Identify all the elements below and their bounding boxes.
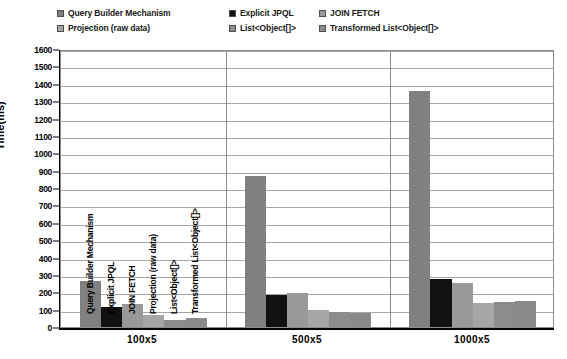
y-axis-tick-label: 1400 bbox=[34, 80, 52, 90]
y-axis-tick-label: 1600 bbox=[34, 45, 52, 55]
y-axis-tick-label: 100 bbox=[39, 306, 52, 316]
y-axis-tick-label: 500 bbox=[39, 236, 52, 246]
bar-500x5-series-4 bbox=[329, 312, 350, 327]
bar-100x5-series-5 bbox=[186, 318, 207, 327]
bar-1000x5-series-2 bbox=[452, 283, 473, 327]
legend-swatch-icon bbox=[319, 25, 326, 32]
x-axis-line bbox=[59, 328, 554, 330]
legend-label: List<Object[]> bbox=[240, 23, 296, 34]
gridline bbox=[61, 86, 553, 87]
gridline bbox=[61, 103, 553, 104]
gridline bbox=[61, 121, 553, 122]
in-plot-series-label: List<Object[]> bbox=[169, 260, 179, 314]
bar-100x5-series-3 bbox=[143, 315, 164, 327]
legend-item-query-builder-mechanism: Query Builder Mechanism bbox=[57, 8, 229, 19]
bar-1000x5-series-0 bbox=[409, 91, 430, 327]
bar-1000x5-series-1 bbox=[430, 279, 451, 327]
category-divider bbox=[226, 51, 227, 327]
gridline bbox=[61, 68, 553, 69]
bar-500x5-series-1 bbox=[266, 295, 287, 327]
gridline bbox=[61, 207, 553, 208]
legend-item-list-object-array: List<Object[]> bbox=[229, 23, 319, 34]
bar-100x5-series-4 bbox=[164, 320, 185, 327]
legend-row: Projection (raw data) List<Object[]> Tra… bbox=[57, 23, 527, 38]
x-axis-category-label: 500x5 bbox=[292, 334, 322, 345]
legend-label: Projection (raw data) bbox=[68, 23, 150, 34]
y-axis-tick-label: 300 bbox=[39, 271, 52, 281]
legend-item-transformed-list-object-array: Transformed List<Object[]> bbox=[319, 23, 438, 34]
y-axis-tick-label: 1500 bbox=[34, 62, 52, 72]
y-axis-tick-label: 900 bbox=[39, 167, 52, 177]
in-plot-series-label: JOIN FETCH bbox=[127, 265, 137, 314]
y-axis-tick-label: 1300 bbox=[34, 97, 52, 107]
y-axis-tick-label: 1100 bbox=[35, 132, 52, 142]
y-axis-tick-label: 400 bbox=[39, 254, 52, 264]
x-axis-category-label: 1000x5 bbox=[454, 334, 490, 345]
bar-500x5-series-3 bbox=[308, 310, 329, 327]
category-divider bbox=[390, 51, 391, 327]
bar-chart: Query Builder Mechanism Explicit JPQL JO… bbox=[0, 0, 567, 359]
legend-item-join-fetch: JOIN FETCH bbox=[319, 8, 380, 19]
legend-swatch-icon bbox=[319, 10, 326, 17]
y-axis-tick-label: 200 bbox=[39, 288, 52, 298]
y-axis-tick-label: 700 bbox=[39, 201, 52, 211]
y-axis-tick-label: 600 bbox=[39, 219, 52, 229]
legend-item-explicit-jpql: Explicit JPQL bbox=[229, 8, 319, 19]
bar-500x5-series-5 bbox=[350, 313, 371, 327]
legend-swatch-icon bbox=[57, 10, 64, 17]
y-axis-tick-label: 800 bbox=[39, 184, 52, 194]
plot-area: Query Builder MechanismExplicit JPQLJOIN… bbox=[60, 50, 554, 328]
bar-1000x5-series-3 bbox=[473, 303, 494, 327]
bar-1000x5-series-4 bbox=[494, 302, 515, 327]
legend-label: Explicit JPQL bbox=[240, 8, 294, 19]
legend-item-projection-raw-data: Projection (raw data) bbox=[57, 23, 229, 34]
legend-swatch-icon bbox=[229, 25, 236, 32]
y-axis: 0100200300400500600700800900100011001200… bbox=[0, 50, 60, 329]
gridline bbox=[61, 138, 553, 139]
gridline bbox=[61, 225, 553, 226]
gridline bbox=[61, 155, 553, 156]
bar-500x5-series-2 bbox=[287, 293, 308, 327]
in-plot-series-label: Query Builder Mechanism bbox=[85, 214, 95, 314]
legend-swatch-icon bbox=[57, 25, 64, 32]
gridline bbox=[61, 260, 553, 261]
legend-label: Query Builder Mechanism bbox=[68, 8, 171, 19]
in-plot-series-label: Projection (raw data) bbox=[148, 234, 158, 314]
legend-row: Query Builder Mechanism Explicit JPQL JO… bbox=[57, 8, 527, 23]
bar-500x5-series-0 bbox=[245, 176, 266, 327]
legend-swatch-icon bbox=[229, 10, 236, 17]
gridline bbox=[61, 173, 553, 174]
chart-legend: Query Builder Mechanism Explicit JPQL JO… bbox=[57, 8, 527, 38]
y-axis-tick-label: 0 bbox=[48, 323, 52, 333]
gridline bbox=[61, 190, 553, 191]
bar-1000x5-series-5 bbox=[515, 301, 536, 327]
gridline bbox=[61, 242, 553, 243]
y-axis-tick-label: 1000 bbox=[34, 149, 52, 159]
in-plot-series-label: Explicit JPQL bbox=[106, 262, 116, 314]
x-axis-category-label: 100x5 bbox=[127, 334, 157, 345]
in-plot-series-label: Transformed List<Object[]> bbox=[190, 208, 200, 314]
legend-label: Transformed List<Object[]> bbox=[330, 23, 438, 34]
y-axis-tick-label: 1200 bbox=[34, 115, 52, 125]
legend-label: JOIN FETCH bbox=[330, 8, 380, 19]
gridline bbox=[61, 51, 553, 52]
